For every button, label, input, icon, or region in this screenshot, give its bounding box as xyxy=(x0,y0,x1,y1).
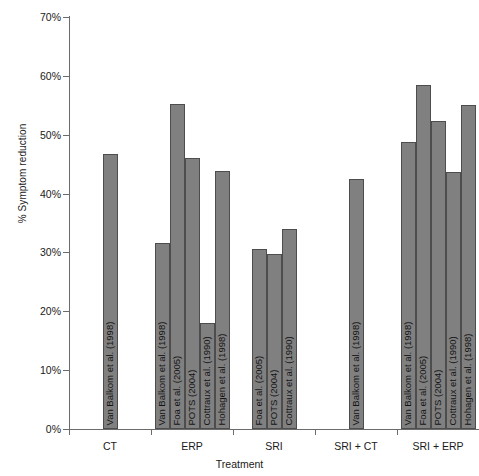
y-tick-label: 0% xyxy=(3,423,61,435)
bar-chart-figure: % Symptom reduction 0%10%20%30%40%50%60%… xyxy=(0,0,479,476)
bar-label: Hohagen et al. (1998) xyxy=(463,333,473,425)
bar-label: Hohagen et al. (1998) xyxy=(217,333,227,425)
bar-label: Cottraux et al. (1990) xyxy=(284,336,294,425)
category-label-ct: CT xyxy=(103,440,117,452)
x-tick-mark xyxy=(233,430,234,435)
bar[interactable]: POTS (2004) xyxy=(267,254,282,429)
bar[interactable]: Cottraux et al. (1990) xyxy=(200,323,215,429)
y-tick-label: 70% xyxy=(3,11,61,23)
y-tick-label: 50% xyxy=(3,129,61,141)
bar-label: Foa et al. (2005) xyxy=(418,355,428,425)
y-axis-title: % Symptom reduction xyxy=(17,74,28,274)
bar[interactable]: POTS (2004) xyxy=(431,121,446,429)
bar-label: POTS (2004) xyxy=(187,369,197,425)
category-label-sri-erp: SRI + ERP xyxy=(412,440,463,452)
x-tick-mark xyxy=(315,430,316,435)
bar[interactable]: Cottraux et al. (1990) xyxy=(446,172,461,429)
bar-label: Foa et al. (2005) xyxy=(172,355,182,425)
category-label-erp: ERP xyxy=(181,440,203,452)
bar-label: Cottraux et al. (1990) xyxy=(448,336,458,425)
bar[interactable]: Foa et al. (2005) xyxy=(170,104,185,429)
y-tick-label: 40% xyxy=(3,188,61,200)
x-axis-line xyxy=(69,429,479,430)
bar-label: Cottraux et al. (1990) xyxy=(202,336,212,425)
bar-label: Van Balkom et al. (1998) xyxy=(351,321,361,425)
x-tick-mark xyxy=(397,430,398,435)
bar[interactable]: Van Balkom et al. (1998) xyxy=(401,142,416,429)
bar-label: Foa et al. (2005) xyxy=(254,355,264,425)
bar[interactable]: Van Balkom et al. (1998) xyxy=(103,154,118,429)
bar[interactable]: Cottraux et al. (1990) xyxy=(282,229,297,429)
bar[interactable]: Van Balkom et al. (1998) xyxy=(349,179,364,429)
y-tick-label: 10% xyxy=(3,364,61,376)
bar[interactable]: Hohagen et al. (1998) xyxy=(215,171,230,429)
bar[interactable]: Foa et al. (2005) xyxy=(416,85,431,429)
category-label-sri-ct: SRI + CT xyxy=(334,440,377,452)
plot-area: Van Balkom et al. (1998)Van Balkom et al… xyxy=(69,17,479,429)
bar[interactable]: Foa et al. (2005) xyxy=(252,249,267,429)
y-tick-label: 30% xyxy=(3,246,61,258)
x-tick-mark xyxy=(151,430,152,435)
bar[interactable]: POTS (2004) xyxy=(185,158,200,429)
x-tick-mark xyxy=(69,430,70,435)
x-axis-title: Treatment xyxy=(0,458,479,470)
y-tick-label: 60% xyxy=(3,70,61,82)
bar[interactable]: Van Balkom et al. (1998) xyxy=(155,243,170,429)
bar-label: Van Balkom et al. (1998) xyxy=(157,321,167,425)
y-tick-label: 20% xyxy=(3,305,61,317)
bar-label: Van Balkom et al. (1998) xyxy=(403,321,413,425)
bar-label: POTS (2004) xyxy=(269,369,279,425)
bar-label: Van Balkom et al. (1998) xyxy=(105,321,115,425)
bar-label: POTS (2004) xyxy=(433,369,443,425)
category-label-sri: SRI xyxy=(265,440,283,452)
bar[interactable]: Hohagen et al. (1998) xyxy=(461,105,476,429)
